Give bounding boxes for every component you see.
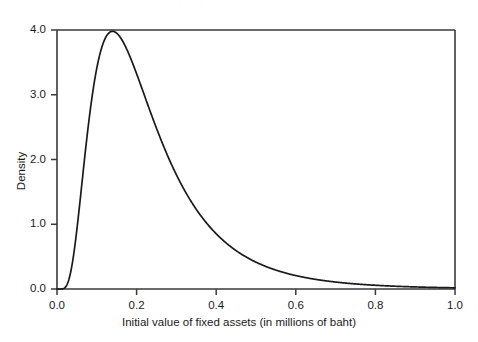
ytick-label-3: 3.0 (10, 89, 46, 101)
x-axis-ticks (57, 289, 455, 295)
axis-frame (57, 30, 455, 289)
ytick-label-4: 4.0 (10, 24, 46, 36)
density-curve (57, 31, 455, 289)
ytick-label-1: 1.0 (10, 219, 46, 231)
xtick-label-1: 0.2 (129, 300, 145, 312)
ytick-label-0: 0.0 (10, 283, 46, 295)
y-axis-title: Density (15, 152, 27, 190)
plot-canvas (0, 0, 478, 342)
xtick-label-0: 0.0 (49, 300, 65, 312)
density-chart-figure: ··· ··· 4.0 3.0 2.0 (0, 0, 478, 342)
xtick-label-5: 1.0 (447, 300, 463, 312)
xtick-label-4: 0.8 (367, 300, 383, 312)
xtick-label-2: 0.4 (208, 300, 224, 312)
xtick-label-3: 0.6 (288, 300, 304, 312)
y-axis-ticks (51, 30, 57, 289)
x-axis-title: Initial value of fixed assets (in millio… (0, 316, 478, 328)
